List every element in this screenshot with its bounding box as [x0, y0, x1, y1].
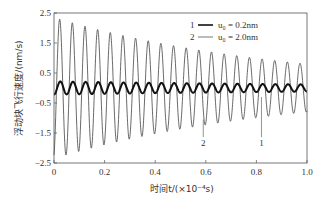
- annotation-label: 1: [259, 138, 264, 148]
- series-u0-2.0nm-line: [54, 19, 307, 155]
- legend-label-2: u₀ = 2.0nm: [218, 32, 258, 42]
- y-tick-label: 0.5: [40, 68, 52, 78]
- x-tick-label: 1.0: [301, 167, 313, 177]
- chart: 2.51.50.5−0.5−1.5−2.5 00.20.40.60.81.0 2…: [0, 0, 325, 204]
- series-u0-0.2nm-line: [54, 82, 307, 95]
- x-tick-label: 0: [52, 167, 57, 177]
- legend-num-2: 2: [190, 32, 195, 42]
- x-tick-label: 0.6: [200, 167, 212, 177]
- y-tick-label: −0.5: [35, 98, 52, 108]
- y-tick-label: −1.5: [35, 128, 52, 138]
- y-tick-label: 2.5: [40, 8, 52, 18]
- y-tick-label: −2.5: [35, 158, 52, 168]
- x-tick-label: 0.4: [150, 167, 162, 177]
- x-tick-label: 0.2: [99, 167, 110, 177]
- legend-num-1: 1: [190, 20, 195, 30]
- y-axis-title: 浮动块飞行速度/(nm/s): [13, 40, 24, 135]
- x-axis-title: 时间t/(×10⁻⁴s): [150, 183, 214, 194]
- y-tick-label: 1.5: [40, 38, 52, 48]
- x-axis-ticks: 00.20.40.60.81.0: [52, 160, 313, 177]
- x-tick-label: 0.8: [251, 167, 263, 177]
- legend: 1 u₀ = 0.2nm 2 u₀ = 2.0nm: [190, 20, 258, 42]
- annotation-label: 2: [201, 138, 206, 148]
- legend-label-1: u₀ = 0.2nm: [218, 20, 258, 30]
